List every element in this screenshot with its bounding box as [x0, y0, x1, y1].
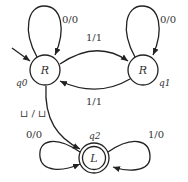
- state-q1: R q1: [128, 55, 171, 88]
- edge-q0-q2: [46, 86, 80, 149]
- edge-q0-q1: [60, 51, 128, 64]
- state-q0-name: q0: [16, 78, 28, 88]
- edge-q1-q0: [60, 79, 130, 89]
- state-q1-name: q1: [159, 78, 171, 88]
- state-q0-output: R: [40, 64, 49, 77]
- label-q2-q2-left: 0/0: [26, 129, 42, 140]
- edge-q2-q2-right: [108, 141, 150, 170]
- label-q2-q2-right: 1/0: [148, 129, 164, 140]
- state-q1-output: R: [138, 64, 147, 77]
- state-q2-output: L: [89, 152, 97, 165]
- label-q1-q1: 0/0: [160, 14, 176, 25]
- label-q0-q0: 0/0: [62, 14, 78, 25]
- label-q1-q0: 1/1: [86, 96, 102, 107]
- state-q0: R q0: [16, 55, 60, 88]
- label-q0-q2: ⊔ / ⊔: [20, 108, 46, 119]
- label-q0-q1: 1/1: [86, 32, 102, 43]
- state-diagram: 0/0 1/1 0/0 1/1 ⊔ / ⊔ 0/0 1/0 R q0 R q1 …: [0, 0, 188, 182]
- edge-q0-q0: [28, 6, 61, 57]
- state-q2: L q2: [79, 131, 109, 173]
- state-q2-name: q2: [89, 131, 101, 141]
- start-arrow: [12, 48, 30, 61]
- edge-q1-q1: [126, 6, 159, 57]
